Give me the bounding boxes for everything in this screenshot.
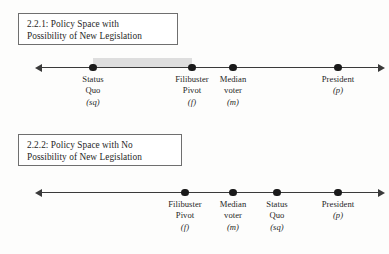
policy-space-axis-panel-1: Status Quo (sq) Filibuster Pivot (f) Med…	[0, 58, 389, 116]
figure-page: 2.2.1: Policy Space with Possibility of …	[0, 0, 389, 254]
point-marker-president	[334, 64, 342, 72]
point-label-symbol: (sq)	[237, 222, 317, 233]
point-label-symbol: (p)	[298, 210, 378, 221]
point-label-line2: voter	[193, 85, 273, 96]
caption-line-2: Possibility of New Legislation	[27, 151, 174, 163]
point-marker-status-quo	[273, 189, 281, 197]
point-label-president: President (p)	[298, 199, 378, 222]
point-label-median-voter: Median voter (m)	[193, 74, 273, 108]
point-label-symbol: (sq)	[53, 97, 133, 108]
point-marker-filibuster-pivot	[181, 189, 189, 197]
point-marker-median-voter	[229, 189, 237, 197]
point-marker-median-voter	[229, 64, 237, 72]
point-marker-president	[334, 189, 342, 197]
policy-space-axis-panel-2: Filibuster Pivot (f) Median voter (m) St…	[0, 186, 389, 252]
caption-box-panel-1: 2.2.1: Policy Space with Possibility of …	[18, 13, 178, 45]
point-label-symbol: (p)	[298, 85, 378, 96]
caption-box-panel-2: 2.2.2: Policy Space with No Possibility …	[18, 134, 182, 166]
point-label-line1: Status	[53, 74, 133, 85]
axis-arrow-right-icon	[378, 189, 385, 197]
point-label-line1: Median	[193, 74, 273, 85]
caption-line-2: Possibility of New Legislation	[27, 30, 170, 42]
point-label-symbol: (m)	[193, 97, 273, 108]
point-label-line1: President	[298, 74, 378, 85]
axis-arrow-left-icon	[35, 189, 42, 197]
axis-arrow-right-icon	[378, 64, 385, 72]
point-label-president: President (p)	[298, 74, 378, 97]
point-marker-filibuster-pivot	[188, 64, 196, 72]
axis-line	[42, 192, 378, 193]
point-label-status-quo: Status Quo (sq)	[53, 74, 133, 108]
caption-line-1: 2.2.1: Policy Space with	[27, 18, 170, 30]
point-label-line1: President	[298, 199, 378, 210]
axis-arrow-left-icon	[35, 64, 42, 72]
point-label-line2: Quo	[53, 85, 133, 96]
point-marker-status-quo	[89, 64, 97, 72]
win-set-shaded-region	[93, 58, 192, 67]
caption-line-1: 2.2.2: Policy Space with No	[27, 139, 174, 151]
